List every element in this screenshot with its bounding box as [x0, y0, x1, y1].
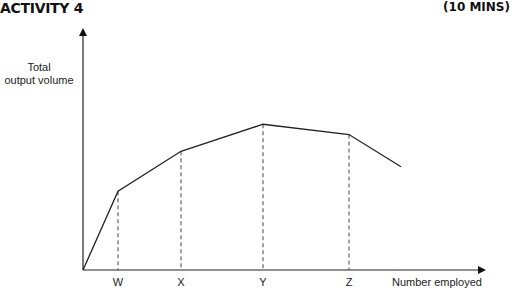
x-tick-x: X: [177, 276, 184, 288]
x-tick-z: Z: [346, 276, 353, 288]
x-tick-w: W: [113, 276, 123, 288]
x-axis-label: Number employed: [392, 276, 482, 288]
output-curve: [83, 124, 401, 270]
drop-lines: [118, 124, 349, 270]
line-chart: [0, 0, 514, 293]
x-tick-y: Y: [259, 276, 266, 288]
